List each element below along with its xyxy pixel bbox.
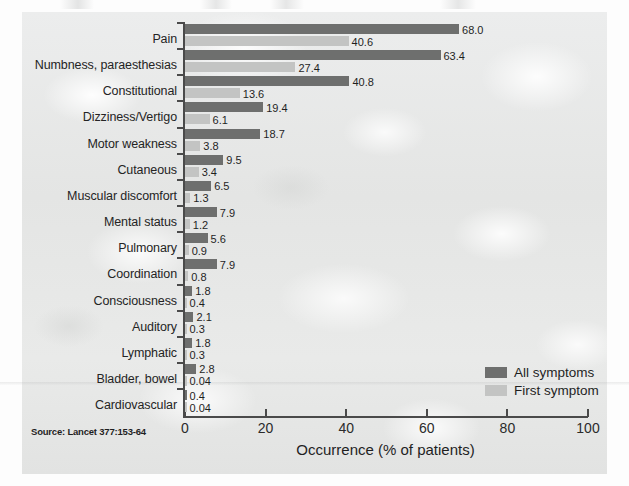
category-label-dizziness-vertigo: Dizziness/Vertigo <box>83 110 177 124</box>
category-label-consciousness: Consciousness <box>94 294 177 308</box>
y-tick-7 <box>177 205 184 207</box>
x-tick-60 <box>426 409 428 417</box>
x-tick-label-20: 20 <box>258 420 274 436</box>
bar-first-symptom-6 <box>185 193 190 203</box>
bar-all-symptoms-9 <box>185 259 217 269</box>
bar-value-label-all-9: 7.9 <box>220 260 235 271</box>
bar-value-label-all-6: 6.5 <box>214 181 229 192</box>
x-tick-label-100: 100 <box>576 420 599 436</box>
x-tick-label-60: 60 <box>419 420 435 436</box>
x-tick-label-80: 80 <box>500 420 516 436</box>
x-axis-line <box>183 416 588 418</box>
y-tick-5 <box>177 153 184 155</box>
bar-value-label-first-10: 0.4 <box>190 298 205 309</box>
bar-value-label-first-13: 0.04 <box>190 376 211 387</box>
bar-first-symptom-1 <box>185 62 295 72</box>
y-tick-8 <box>177 231 184 233</box>
bar-all-symptoms-0 <box>185 24 459 34</box>
bar-first-symptom-12 <box>185 350 187 360</box>
x-tick-label-40: 40 <box>338 420 354 436</box>
bar-value-label-all-4: 18.7 <box>263 129 284 140</box>
bar-first-symptom-5 <box>185 167 199 177</box>
y-tick-12 <box>177 336 184 338</box>
y-tick-10 <box>177 284 184 286</box>
chart-screenshot: 020406080100 PainNumbness, paraesthesias… <box>0 0 629 486</box>
category-label-mental-status: Mental status <box>104 215 177 229</box>
y-tick-4 <box>177 127 184 129</box>
bar-value-label-first-11: 0.3 <box>190 324 205 335</box>
bar-all-symptoms-11 <box>185 312 193 322</box>
category-label-bladder-bowel: Bladder, bowel <box>96 372 177 386</box>
category-label-motor-weakness: Motor weakness <box>87 137 177 151</box>
y-tick-1 <box>177 48 184 50</box>
bar-value-label-first-3: 6.1 <box>213 115 228 126</box>
bar-first-symptom-8 <box>185 245 189 255</box>
y-tick-9 <box>177 257 184 259</box>
bar-value-label-all-1: 63.4 <box>444 51 465 62</box>
bar-value-label-all-5: 9.5 <box>226 155 241 166</box>
bar-all-symptoms-12 <box>185 338 192 348</box>
bar-all-symptoms-6 <box>185 181 211 191</box>
category-label-coordination: Coordination <box>107 267 177 281</box>
bar-all-symptoms-4 <box>185 129 260 139</box>
bar-all-symptoms-3 <box>185 102 263 112</box>
x-tick-80 <box>506 409 508 417</box>
source-note: Source: Lancet 377:153-64 <box>31 426 146 437</box>
bar-chart-plot: 020406080100 PainNumbness, paraesthesias… <box>0 0 629 486</box>
y-tick-3 <box>177 100 184 102</box>
bar-value-label-all-2: 40.8 <box>352 77 373 88</box>
bar-value-label-all-14: 0.4 <box>190 391 205 402</box>
category-label-pulmonary: Pulmonary <box>118 241 177 255</box>
legend-item-first-symptom[interactable]: First symptom <box>485 382 599 399</box>
bar-value-label-all-12: 1.8 <box>195 338 210 349</box>
bar-first-symptom-0 <box>185 36 349 46</box>
category-label-auditory: Auditory <box>132 320 177 334</box>
y-tick-2 <box>177 74 184 76</box>
bar-value-label-first-12: 0.3 <box>190 350 205 361</box>
y-tick-6 <box>177 179 184 181</box>
bar-value-label-first-2: 13.6 <box>243 89 264 100</box>
bar-value-label-all-8: 5.6 <box>211 234 226 245</box>
bar-first-symptom-2 <box>185 88 240 98</box>
legend-item-all-symptoms[interactable]: All symptoms <box>485 364 599 381</box>
bar-first-symptom-9 <box>185 271 188 281</box>
bar-value-label-first-5: 3.4 <box>202 167 217 178</box>
bar-first-symptom-7 <box>185 219 190 229</box>
legend-swatch-first-icon <box>485 385 507 396</box>
bar-all-symptoms-7 <box>185 207 217 217</box>
x-axis-title: Occurrence (% of patients) <box>183 441 588 458</box>
y-tick-0 <box>177 22 184 24</box>
legend-label-all-symptoms: All symptoms <box>514 365 594 380</box>
category-label-numbness-paraesthesias: Numbness, paraesthesias <box>35 58 177 72</box>
x-tick-100 <box>587 409 589 417</box>
category-label-muscular-discomfort: Muscular discomfort <box>67 189 177 203</box>
bar-value-label-first-6: 1.3 <box>193 193 208 204</box>
bar-value-label-first-7: 1.2 <box>193 220 208 231</box>
y-tick-13 <box>177 362 184 364</box>
legend-swatch-all-icon <box>485 367 507 378</box>
category-label-constitutional: Constitutional <box>103 84 177 98</box>
bar-all-symptoms-2 <box>185 76 349 86</box>
bar-value-label-all-3: 19.4 <box>266 103 287 114</box>
x-tick-20 <box>265 409 267 417</box>
bar-value-label-all-0: 68.0 <box>462 25 483 36</box>
bar-all-symptoms-8 <box>185 233 208 243</box>
bar-all-symptoms-13 <box>185 364 196 374</box>
bar-value-label-first-1: 27.4 <box>298 63 319 74</box>
x-tick-40 <box>345 409 347 417</box>
category-label-pain: Pain <box>152 32 177 46</box>
x-tick-label-0: 0 <box>181 420 189 436</box>
chart-legend: All symptomsFirst symptom <box>485 364 599 400</box>
category-label-cardiovascular: Cardiovascular <box>95 398 177 412</box>
bar-all-symptoms-14 <box>185 390 187 400</box>
bar-all-symptoms-10 <box>185 286 192 296</box>
bar-value-label-all-13: 2.8 <box>199 364 214 375</box>
bar-value-label-first-14: 0.04 <box>190 403 211 414</box>
bar-all-symptoms-1 <box>185 50 441 60</box>
category-label-cutaneous: Cutaneous <box>117 163 177 177</box>
bar-first-symptom-3 <box>185 114 210 124</box>
bar-value-label-first-8: 0.9 <box>192 246 207 257</box>
bar-first-symptom-14 <box>185 402 187 412</box>
bar-value-label-first-0: 40.6 <box>352 37 373 48</box>
y-tick-11 <box>177 310 184 312</box>
